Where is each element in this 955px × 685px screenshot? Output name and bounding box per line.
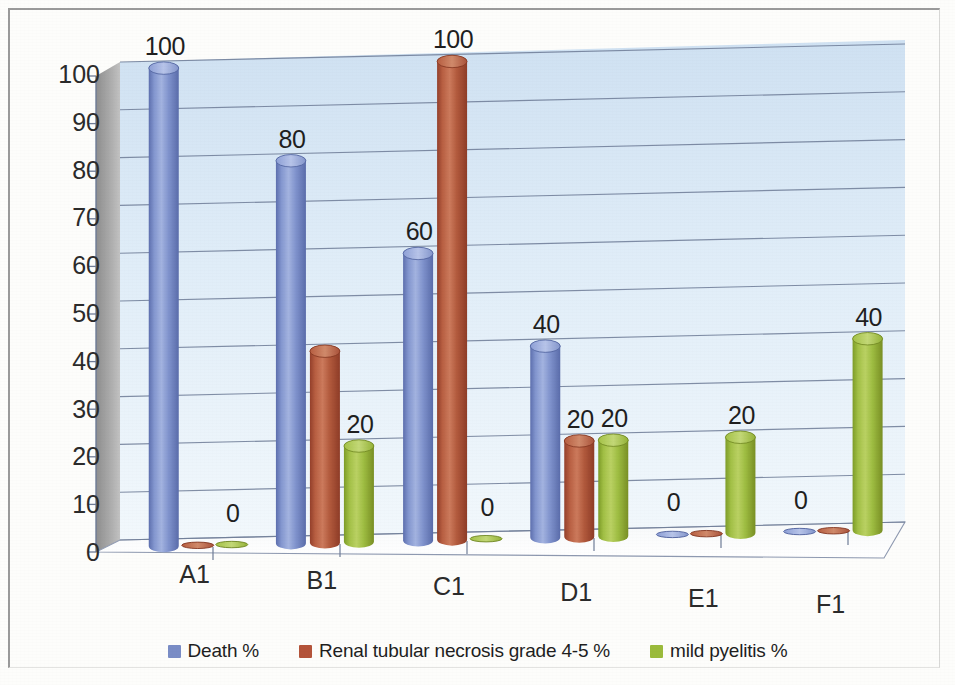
y-axis-labels: 0102030405060708090100 xyxy=(28,0,100,685)
legend-label: mild pyelitis % xyxy=(670,640,787,662)
bar-D1-series3 xyxy=(598,434,628,542)
chart-legend: Death %Renal tubular necrosis grade 4-5 … xyxy=(0,640,955,662)
y-axis-tick-0: 0 xyxy=(86,540,100,565)
data-label-A1-series1: 100 xyxy=(145,32,185,61)
bar-B1-series2 xyxy=(310,345,340,549)
bar-A1-series1 xyxy=(149,62,179,552)
bar-C1-series2 xyxy=(437,55,467,545)
data-label-C1-series3: 0 xyxy=(480,493,493,522)
data-label-D1-series3: 20 xyxy=(601,404,628,433)
x-axis-label-A1: A1 xyxy=(179,560,210,589)
data-label-E1-series1: 0 xyxy=(667,488,680,517)
legend-item-3[interactable]: mild pyelitis % xyxy=(650,640,787,662)
data-label-A1-series3: 0 xyxy=(226,499,239,528)
legend-swatch-icon xyxy=(299,645,312,658)
data-label-B1-series3: 20 xyxy=(347,410,374,439)
x-axis-label-F1: F1 xyxy=(816,590,845,619)
y-axis-tick-20: 20 xyxy=(72,444,100,469)
bar-E1-series2 xyxy=(690,530,722,536)
data-label-F1-series3: 40 xyxy=(855,303,882,332)
bar-chart: 0102030405060708090100 A1B1C1D1E1F1 1000… xyxy=(0,0,955,685)
bar-A1-series2 xyxy=(182,542,214,548)
x-axis-label-C1: C1 xyxy=(433,572,465,601)
bar-F1-series1 xyxy=(784,528,816,534)
data-label-C1-series1: 60 xyxy=(406,217,433,246)
data-label-B1-series1: 80 xyxy=(279,125,306,154)
legend-item-1[interactable]: Death % xyxy=(168,640,259,662)
bar-E1-series3 xyxy=(725,431,755,539)
legend-label: Renal tubular necrosis grade 4-5 % xyxy=(319,640,610,662)
y-axis-tick-90: 90 xyxy=(72,109,100,134)
bar-B1-series3 xyxy=(344,440,374,548)
bar-F1-series2 xyxy=(818,528,850,534)
bar-E1-series1 xyxy=(656,531,688,537)
y-axis-tick-60: 60 xyxy=(72,253,100,278)
bar-F1-series3 xyxy=(853,333,883,537)
data-label-D1-series2: 20 xyxy=(567,405,594,434)
x-axis-label-E1: E1 xyxy=(688,584,719,613)
bar-D1-series1 xyxy=(530,340,560,544)
x-axis-label-D1: D1 xyxy=(560,578,592,607)
bar-C1-series3 xyxy=(470,536,502,542)
legend-label: Death % xyxy=(188,640,259,662)
y-axis-tick-30: 30 xyxy=(72,396,100,421)
plot-back-wall xyxy=(120,40,905,540)
y-axis-tick-40: 40 xyxy=(72,348,100,373)
bar-D1-series2 xyxy=(564,435,594,543)
y-axis-tick-10: 10 xyxy=(72,492,100,517)
data-label-E1-series3: 20 xyxy=(728,401,755,430)
legend-swatch-icon xyxy=(650,645,663,658)
y-axis-tick-80: 80 xyxy=(72,157,100,182)
data-label-C1-series2: 100 xyxy=(433,25,473,54)
bar-B1-series1 xyxy=(276,155,306,550)
legend-item-2[interactable]: Renal tubular necrosis grade 4-5 % xyxy=(299,640,610,662)
y-axis-tick-100: 100 xyxy=(58,62,100,87)
y-axis-tick-50: 50 xyxy=(72,301,100,326)
legend-swatch-icon xyxy=(168,645,181,658)
y-axis-tick-70: 70 xyxy=(72,205,100,230)
data-label-F1-series1: 0 xyxy=(794,486,807,515)
data-label-D1-series1: 40 xyxy=(533,310,560,339)
x-axis-label-B1: B1 xyxy=(307,566,338,595)
bar-C1-series1 xyxy=(403,247,433,546)
plot-area xyxy=(0,0,955,685)
bar-A1-series3 xyxy=(216,541,248,547)
